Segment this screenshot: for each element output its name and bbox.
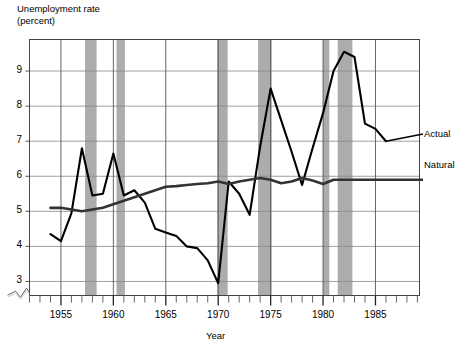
x-tick-label: 1955 xyxy=(41,309,81,320)
plot-area xyxy=(0,0,476,347)
x-tick-label: 1980 xyxy=(303,309,343,320)
y-tick-label: 7 xyxy=(6,134,22,145)
x-tick-label: 1975 xyxy=(251,309,291,320)
x-tick-label: 1985 xyxy=(355,309,395,320)
y-tick-label: 9 xyxy=(6,64,22,75)
x-tick-label: 1970 xyxy=(198,309,238,320)
x-tick-label: 1960 xyxy=(93,309,133,320)
chart-figure: Unemployment rate (percent) Year Actual … xyxy=(0,0,476,347)
x-tick-label: 1965 xyxy=(146,309,186,320)
y-tick-label: 5 xyxy=(6,204,22,215)
recession-bands xyxy=(85,40,352,296)
y-tick-label: 3 xyxy=(6,274,22,285)
y-tick-label: 6 xyxy=(6,169,22,180)
y-axis-break-icon xyxy=(8,288,30,299)
y-tick-label: 8 xyxy=(6,99,22,110)
y-tick-label: 4 xyxy=(6,239,22,250)
